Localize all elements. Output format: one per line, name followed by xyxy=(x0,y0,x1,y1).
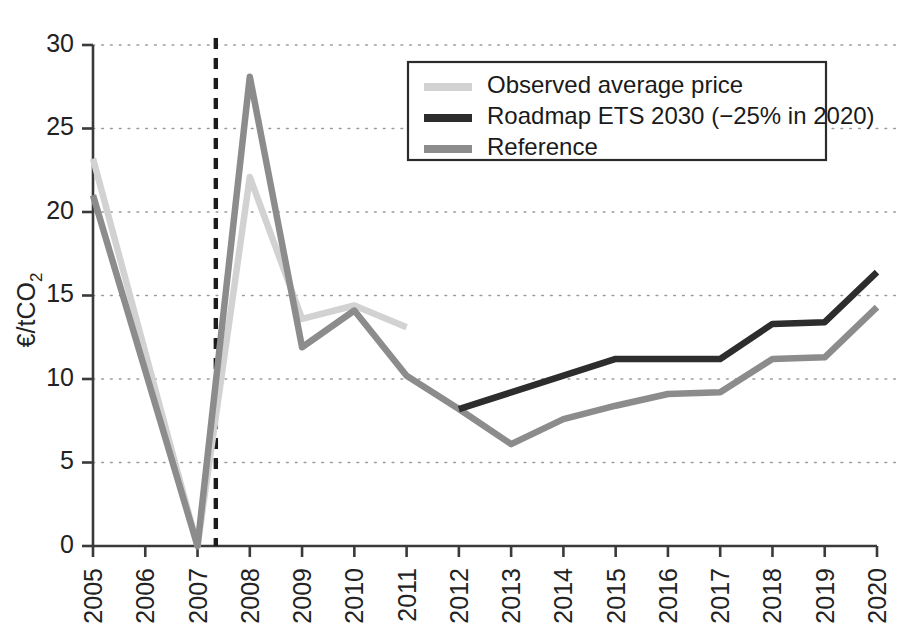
y-tick-label: 20 xyxy=(46,196,74,224)
x-tick-label: 2014 xyxy=(549,568,577,624)
y-tick-label: 25 xyxy=(46,112,74,140)
x-tick-label: 2017 xyxy=(706,568,734,624)
chart-container: 051015202530 200520062007200820092010201… xyxy=(0,0,899,637)
chart-legend: Observed average priceRoadmap ETS 2030 (… xyxy=(408,62,875,160)
legend-label: Observed average price xyxy=(487,71,743,98)
svg-text:€/tCO2: €/tCO2 xyxy=(12,273,46,348)
x-tick-label: 2008 xyxy=(236,568,264,624)
x-tick-label: 2009 xyxy=(288,568,316,624)
x-tick-label: 2016 xyxy=(654,568,682,624)
x-tick-label: 2019 xyxy=(811,568,839,624)
y-axis-ticks: 051015202530 xyxy=(46,29,93,558)
legend-label: Reference xyxy=(487,133,598,160)
x-tick-label: 2005 xyxy=(79,568,107,624)
x-tick-label: 2011 xyxy=(393,568,421,622)
y-tick-label: 15 xyxy=(46,279,74,307)
y-tick-label: 30 xyxy=(46,29,74,57)
x-tick-label: 2015 xyxy=(602,568,630,624)
y-axis-title-base: €/tCO xyxy=(12,282,40,347)
x-tick-label: 2018 xyxy=(758,568,786,624)
x-tick-label: 2012 xyxy=(445,568,473,624)
y-tick-label: 0 xyxy=(60,530,74,558)
x-tick-label: 2010 xyxy=(340,568,368,624)
x-tick-label: 2020 xyxy=(863,568,891,624)
x-axis-ticks: 2005200620072008200920102011201220132014… xyxy=(79,546,891,624)
y-tick-label: 10 xyxy=(46,363,74,391)
y-tick-label: 5 xyxy=(60,446,74,474)
legend-label: Roadmap ETS 2030 (−25% in 2020) xyxy=(487,102,875,129)
line-chart: 051015202530 200520062007200820092010201… xyxy=(0,0,899,637)
y-axis-title: €/tCO2 xyxy=(12,273,46,348)
y-axis-title-subscript: 2 xyxy=(27,273,46,282)
x-tick-label: 2007 xyxy=(184,568,212,624)
series-line xyxy=(459,272,877,409)
x-tick-label: 2013 xyxy=(497,568,525,624)
x-tick-label: 2006 xyxy=(131,568,159,624)
